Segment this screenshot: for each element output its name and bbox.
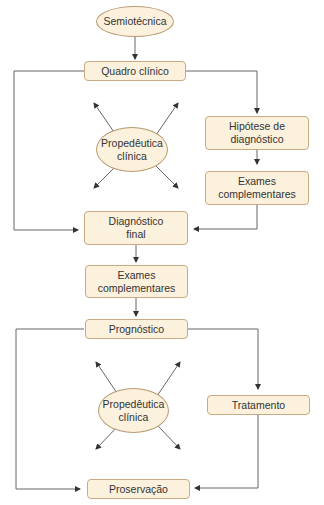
- node-tratamento: Tratamento: [207, 395, 310, 415]
- node-label: Exames complementares: [218, 175, 296, 201]
- node-propedeutica-2: Propedêutica clínica: [98, 388, 169, 433]
- node-prognostico: Prognóstico: [85, 319, 188, 339]
- node-exames-complementares-2: Exames complementares: [85, 265, 188, 298]
- node-label: Semiotécnica: [103, 15, 166, 28]
- node-diagnostico-final: Diagnóstico final: [84, 211, 188, 245]
- node-exames-complementares-1: Exames complementares: [205, 171, 309, 205]
- node-semiotecnica: Semiotécnica: [96, 6, 174, 37]
- flowchart: Semiotécnica Quadro clínico Propedêutica…: [0, 0, 324, 505]
- node-label: Propedêutica clínica: [103, 398, 165, 424]
- node-label: Exames complementares: [98, 269, 176, 295]
- node-quadro-clinico: Quadro clínico: [84, 61, 186, 81]
- node-label: Hipótese de diagnóstico: [229, 120, 285, 146]
- node-label: Proservação: [109, 483, 168, 496]
- node-label: Prognóstico: [109, 323, 164, 336]
- node-proservacao: Proservação: [87, 479, 190, 499]
- node-label: Quadro clínico: [101, 65, 169, 78]
- node-label: Diagnóstico final: [109, 215, 164, 241]
- node-hipotese-diagnostico: Hipótese de diagnóstico: [205, 116, 309, 150]
- node-label: Propedêutica clínica: [101, 137, 163, 163]
- node-propedeutica-1: Propedêutica clínica: [96, 127, 168, 172]
- node-label: Tratamento: [232, 399, 285, 412]
